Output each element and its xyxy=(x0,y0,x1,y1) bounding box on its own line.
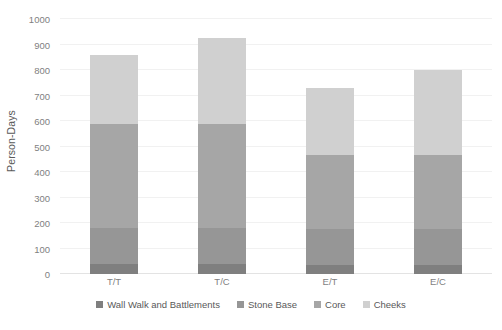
bar-group[interactable] xyxy=(384,19,492,274)
bar-segment[interactable] xyxy=(414,155,462,229)
x-axis-tick-label: E/C xyxy=(430,276,446,287)
legend-item[interactable]: Stone Base xyxy=(237,299,297,310)
bar-segment[interactable] xyxy=(90,228,138,264)
stacked-bar[interactable] xyxy=(414,19,462,274)
y-axis-tick-label: 400 xyxy=(0,167,50,178)
bar-segment[interactable] xyxy=(414,229,462,265)
plot-area xyxy=(60,19,492,274)
legend-swatch-icon xyxy=(314,301,321,308)
bar-segment[interactable] xyxy=(198,124,246,229)
x-axis-tick-label: E/T xyxy=(323,276,338,287)
legend-label: Wall Walk and Battlements xyxy=(107,299,220,310)
legend-label: Core xyxy=(325,299,346,310)
bar-segment[interactable] xyxy=(90,124,138,229)
legend-label: Cheeks xyxy=(374,299,406,310)
stacked-bar[interactable] xyxy=(90,19,138,274)
x-axis-ticks: T/TT/CE/TE/C xyxy=(60,276,492,292)
bar-segment[interactable] xyxy=(198,264,246,274)
bar-group[interactable] xyxy=(60,19,168,274)
y-axis-tick-label: 0 xyxy=(0,269,50,280)
y-axis-tick-label: 900 xyxy=(0,39,50,50)
bar-segment[interactable] xyxy=(306,155,354,229)
y-axis-tick-label: 1000 xyxy=(0,14,50,25)
bar-segment[interactable] xyxy=(90,55,138,124)
stacked-bar[interactable] xyxy=(198,19,246,274)
bar-group[interactable] xyxy=(168,19,276,274)
bar-series-container xyxy=(60,19,492,274)
bar-segment[interactable] xyxy=(198,228,246,264)
bar-segment[interactable] xyxy=(306,88,354,156)
x-axis-tick-label: T/T xyxy=(107,276,121,287)
bar-segment[interactable] xyxy=(306,265,354,274)
y-axis-tick-label: 300 xyxy=(0,192,50,203)
y-axis-tick-label: 100 xyxy=(0,243,50,254)
bar-segment[interactable] xyxy=(90,264,138,274)
y-axis-tick-label: 700 xyxy=(0,90,50,101)
legend-item[interactable]: Core xyxy=(314,299,346,310)
bar-segment[interactable] xyxy=(306,229,354,265)
y-axis-tick-label: 500 xyxy=(0,141,50,152)
y-axis-tick-label: 200 xyxy=(0,218,50,229)
legend-swatch-icon xyxy=(237,301,244,308)
chart-legend: Wall Walk and BattlementsStone BaseCoreC… xyxy=(0,299,502,310)
legend-label: Stone Base xyxy=(248,299,297,310)
legend-item[interactable]: Wall Walk and Battlements xyxy=(96,299,220,310)
bar-segment[interactable] xyxy=(198,38,246,123)
bar-group[interactable] xyxy=(276,19,384,274)
bar-segment[interactable] xyxy=(414,70,462,155)
y-axis-tick-label: 800 xyxy=(0,65,50,76)
x-axis-tick-label: T/C xyxy=(214,276,229,287)
y-axis-tick-label: 600 xyxy=(0,116,50,127)
bar-segment[interactable] xyxy=(414,265,462,274)
stacked-bar-chart: Person-Days 0100200300400500600700800900… xyxy=(0,0,502,330)
legend-swatch-icon xyxy=(363,301,370,308)
legend-item[interactable]: Cheeks xyxy=(363,299,406,310)
legend-swatch-icon xyxy=(96,301,103,308)
stacked-bar[interactable] xyxy=(306,19,354,274)
